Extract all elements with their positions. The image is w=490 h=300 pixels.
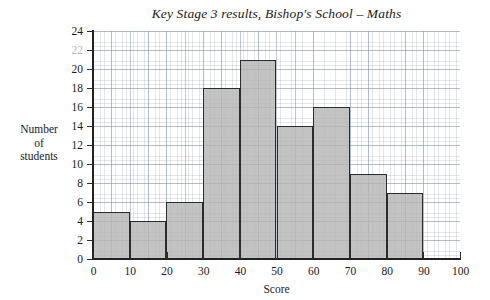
y-axis-tick: 8	[87, 183, 92, 184]
histogram-bar	[166, 202, 203, 259]
x-axis-tick-label: 10	[125, 264, 137, 278]
x-axis-tick: 90	[423, 252, 424, 259]
histogram-bar	[277, 126, 314, 259]
y-axis-tick-label: 0	[77, 252, 83, 266]
y-axis-title-line-1: Number	[8, 123, 70, 137]
y-axis-tick: 16	[87, 107, 92, 108]
y-axis-tick-label: 24	[72, 24, 84, 38]
y-axis-tick: 10	[87, 164, 92, 165]
y-axis-title-line-3: students	[8, 150, 70, 164]
y-axis-tick: 6	[87, 202, 92, 203]
y-axis-title: Number of students	[8, 123, 70, 164]
x-axis-tick: 30	[203, 252, 204, 259]
x-axis-tick: 10	[130, 252, 131, 259]
y-axis-tick: 12	[87, 145, 92, 146]
y-axis-tick-label: 8	[77, 176, 83, 190]
y-axis-title-line-2: of	[8, 137, 70, 151]
y-axis-tick: 18	[87, 88, 92, 89]
x-axis-tick-label: 90	[418, 264, 430, 278]
y-axis-tick-label: 6	[77, 195, 83, 209]
bar-series	[93, 31, 460, 259]
chart-title: Key Stage 3 results, Bishop's School – M…	[93, 6, 460, 22]
x-axis-tick-label: 60	[308, 264, 320, 278]
y-axis-tick-label: 16	[72, 100, 84, 114]
x-axis-tick-label: 40	[235, 264, 247, 278]
x-axis-tick: 70	[350, 252, 351, 259]
histogram-bar	[93, 212, 130, 260]
y-axis-tick: 22	[87, 50, 92, 51]
y-axis-tick: 20	[87, 69, 92, 70]
histogram-bar	[130, 221, 167, 259]
histogram-bar	[313, 107, 350, 259]
x-axis-tick: 40	[240, 252, 241, 259]
x-axis-tick-label: 0	[91, 264, 97, 278]
plot-area	[93, 31, 460, 259]
y-axis-tick-label: 2	[77, 233, 83, 247]
x-axis-tick: 60	[313, 252, 314, 259]
x-axis-tick: 50	[277, 252, 278, 259]
y-axis-tick-label: 18	[72, 81, 84, 95]
y-axis-tick-label: 12	[72, 138, 84, 152]
y-axis-tick-label: 10	[72, 157, 84, 171]
x-axis-tick: 80	[387, 252, 388, 259]
histogram-figure: Key Stage 3 results, Bishop's School – M…	[0, 0, 490, 300]
y-axis-tick: 4	[87, 221, 92, 222]
x-axis-tick-label: 50	[271, 264, 283, 278]
y-axis-tick-label: 4	[77, 214, 83, 228]
y-axis-tick: 24	[87, 31, 92, 32]
x-axis-tick: 0	[93, 252, 94, 259]
x-axis-tick: 20	[166, 252, 167, 259]
y-axis-tick: 2	[87, 240, 92, 241]
x-axis-title: Score	[93, 283, 460, 295]
y-axis-tick: 0	[87, 259, 92, 260]
y-axis-tick: 14	[87, 126, 92, 127]
histogram-bar	[240, 60, 277, 260]
y-axis-tick-label: 14	[72, 119, 84, 133]
x-axis-tick-label: 20	[161, 264, 173, 278]
y-axis-tick-label: 20	[72, 62, 84, 76]
histogram-bar	[387, 193, 424, 260]
x-axis-tick-label: 70	[345, 264, 357, 278]
x-axis-tick-label: 100	[452, 264, 469, 278]
histogram-bar	[203, 88, 240, 259]
x-axis-tick: 100	[460, 252, 461, 259]
y-axis-tick-label: 22	[72, 43, 84, 57]
y-axis-line	[92, 30, 94, 260]
histogram-bar	[350, 174, 387, 260]
x-axis-tick-label: 80	[381, 264, 393, 278]
x-axis-tick-label: 30	[198, 264, 210, 278]
